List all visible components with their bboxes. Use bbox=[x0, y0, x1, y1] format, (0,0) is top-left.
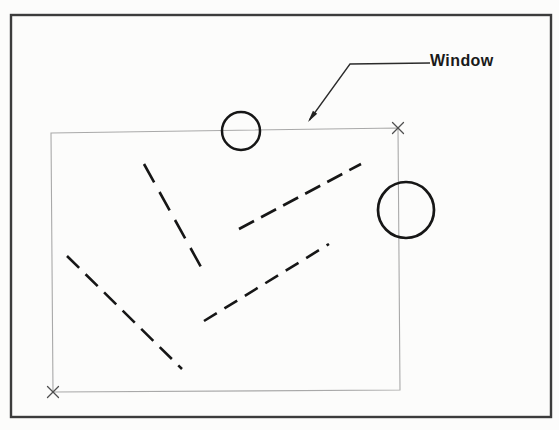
selection-window bbox=[51, 128, 400, 392]
large-circle bbox=[378, 182, 434, 238]
figure-canvas: Window bbox=[0, 0, 559, 430]
outer-border bbox=[11, 15, 551, 417]
window-label: Window bbox=[430, 53, 494, 69]
leader-arrowhead bbox=[308, 111, 317, 122]
dashed-line-lower-right bbox=[204, 244, 329, 321]
dashed-line-upper-right bbox=[239, 164, 361, 229]
leader-line bbox=[310, 63, 431, 120]
dashed-line-lower-left bbox=[67, 256, 182, 369]
dashed-line-upper-left bbox=[144, 164, 201, 267]
